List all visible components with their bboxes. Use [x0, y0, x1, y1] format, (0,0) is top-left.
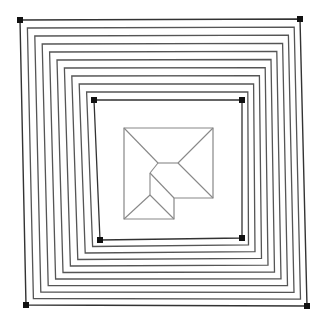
offset-ring [87, 92, 249, 247]
skeleton-edge [150, 195, 174, 219]
skeleton-edge [178, 163, 213, 198]
offset-ring [42, 43, 287, 285]
outer-corner-marker [17, 17, 23, 23]
skeleton-edge [124, 128, 158, 163]
skeleton-edge [178, 128, 213, 163]
skeleton-edge [150, 173, 174, 198]
skeleton-edge [150, 163, 158, 173]
inner-corner-marker [91, 97, 97, 103]
inner-corner-marker [239, 97, 245, 103]
inner-corner-marker [239, 235, 245, 241]
outer-corner-marker [297, 16, 303, 22]
offset-ring [79, 84, 255, 253]
offset-squares-diagram [0, 0, 319, 321]
outer-corner-marker [304, 303, 310, 309]
offset-ring [35, 35, 294, 292]
skeleton-lines [124, 128, 213, 219]
skeleton-edge [124, 195, 150, 219]
inner-corner-marker [97, 237, 103, 243]
diagram-canvas [0, 0, 319, 321]
outer-corner-marker [23, 302, 29, 308]
